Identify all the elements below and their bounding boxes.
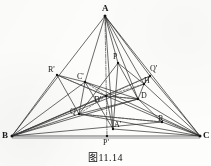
segment-a-cp <box>85 16 105 82</box>
segment-a-qp <box>105 16 150 76</box>
point-label-pp: P' <box>103 139 109 147</box>
segment-c-h <box>144 84 200 136</box>
point-dot-dp <box>105 95 107 97</box>
hidden-segment-dp-cp <box>85 82 106 96</box>
segment-b-r <box>12 122 162 136</box>
point-label-rp: R' <box>48 66 55 74</box>
point-dot-p <box>117 62 119 64</box>
point-label-d: D <box>141 92 147 100</box>
point-dot-cp <box>84 81 86 83</box>
point-label-ap: A' <box>114 121 121 129</box>
point-dot-b <box>11 135 14 138</box>
point-dot-a <box>104 15 107 18</box>
point-dot-pp <box>106 135 108 137</box>
point-label-h: H <box>144 77 150 85</box>
point-label-a: A <box>102 4 109 13</box>
segment-a-h <box>105 16 144 84</box>
point-dot-d <box>137 98 139 100</box>
point-label-b: B <box>2 131 8 140</box>
point-label-p: P <box>113 53 117 61</box>
figure-container: ABCR'C'PQ'HD'DQRA'P' 图11.14 <box>0 0 211 166</box>
point-label-c: C <box>203 131 210 140</box>
point-label-r: R <box>158 115 163 123</box>
point-dot-rp <box>56 74 58 76</box>
point-label-q: Q <box>70 108 76 116</box>
point-label-qp: Q' <box>150 65 157 73</box>
figure-caption: 图11.14 <box>0 149 211 164</box>
point-label-cp: C' <box>77 73 84 81</box>
point-label-dp: D' <box>94 96 101 104</box>
point-dot-c <box>199 135 202 138</box>
point-dot-q <box>78 113 80 115</box>
